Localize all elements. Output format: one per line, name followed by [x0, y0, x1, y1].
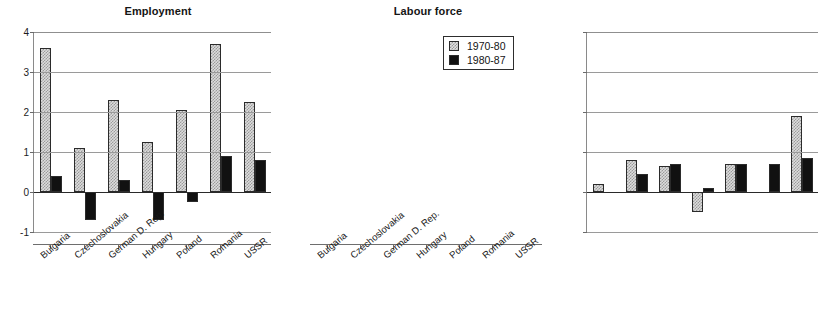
y-axis-label-4: 4 — [23, 27, 29, 38]
gridline-2 — [587, 112, 818, 113]
bar — [187, 192, 198, 202]
x-axis-category-label: USSR — [513, 235, 540, 260]
gridline-4 — [587, 32, 818, 33]
bar — [692, 192, 703, 212]
plot-area-labour-force — [586, 32, 818, 232]
y-axis-label-3: 3 — [23, 67, 29, 78]
legend-label-1970-80: 1970-80 — [467, 40, 506, 52]
bar-group — [720, 32, 753, 232]
gridline--1 — [587, 232, 818, 233]
y-tick-4 — [583, 32, 587, 33]
bars-employment — [34, 32, 271, 232]
bar-group — [620, 32, 653, 232]
gridline-1 — [34, 152, 271, 153]
bar — [221, 156, 232, 192]
y-axis-label-0: 0 — [23, 187, 29, 198]
bar — [244, 102, 255, 192]
bar — [802, 158, 813, 192]
y-axis-label-2: 2 — [23, 107, 29, 118]
bar — [736, 164, 747, 192]
y-tick-4 — [30, 32, 34, 33]
gridline-0 — [34, 192, 271, 193]
bar — [791, 116, 802, 192]
plot-area-employment: -101234 — [33, 32, 271, 232]
bar — [626, 160, 637, 192]
gridline-4 — [34, 32, 271, 33]
x-axis-category-label: Poland — [174, 233, 204, 260]
legend-label-1980-87: 1980-87 — [467, 54, 506, 66]
y-tick-3 — [583, 72, 587, 73]
bar-group — [204, 32, 238, 232]
bars-labour-force — [587, 32, 818, 232]
y-axis-label--1: -1 — [20, 227, 29, 238]
bar-group — [34, 32, 68, 232]
bar-group — [102, 32, 136, 232]
x-axis-category-label: USSR — [242, 235, 269, 260]
bar — [637, 174, 648, 192]
y-tick-2 — [583, 112, 587, 113]
y-tick--1 — [30, 232, 34, 233]
legend-entry-1980-87: 1980-87 — [449, 54, 506, 66]
y-tick-1 — [583, 152, 587, 153]
bar-group — [170, 32, 204, 232]
bar — [210, 44, 221, 192]
bar — [119, 180, 130, 192]
bar — [593, 184, 604, 192]
bar — [51, 176, 62, 192]
legend-swatch-hatched-icon — [449, 41, 459, 51]
x-axis-category-label: Bulgaria — [38, 230, 72, 261]
bar-group — [686, 32, 719, 232]
chart-panel-employment: Employment -101234 BulgariaCzechoslovaki… — [0, 0, 276, 309]
gridline-3 — [34, 72, 271, 73]
bar — [659, 166, 670, 192]
y-tick-2 — [30, 112, 34, 113]
bar — [670, 164, 681, 192]
bar — [176, 110, 187, 192]
y-tick-0 — [583, 192, 587, 193]
bar — [725, 164, 736, 192]
bar-group — [587, 32, 620, 232]
gridline-2 — [34, 112, 271, 113]
y-axis-label-1: 1 — [23, 147, 29, 158]
bar — [74, 148, 85, 192]
y-tick-0 — [30, 192, 34, 193]
x-axis-category-label: Bulgaria — [315, 230, 349, 261]
y-tick--1 — [583, 232, 587, 233]
gridline-0 — [587, 192, 818, 193]
y-tick-1 — [30, 152, 34, 153]
bar — [142, 142, 153, 192]
bar — [40, 48, 51, 192]
bar — [769, 164, 780, 192]
legend-swatch-solid-icon — [449, 55, 459, 65]
bar-group — [68, 32, 102, 232]
gridline-3 — [587, 72, 818, 73]
bar — [85, 192, 96, 220]
bar-group — [653, 32, 686, 232]
bar-group — [786, 32, 819, 232]
chart-title-labour-force: Labour force — [276, 5, 566, 17]
bar-group — [753, 32, 786, 232]
legend-entry-1970-80: 1970-80 — [449, 40, 506, 52]
chart-title-employment: Employment — [0, 5, 296, 17]
y-tick-3 — [30, 72, 34, 73]
x-axis-category-label: Poland — [447, 233, 477, 260]
legend: 1970-80 1980-87 — [443, 36, 514, 70]
bar-group — [136, 32, 170, 232]
bar — [108, 100, 119, 192]
bar-group — [238, 32, 272, 232]
bar — [255, 160, 266, 192]
gridline-1 — [587, 152, 818, 153]
